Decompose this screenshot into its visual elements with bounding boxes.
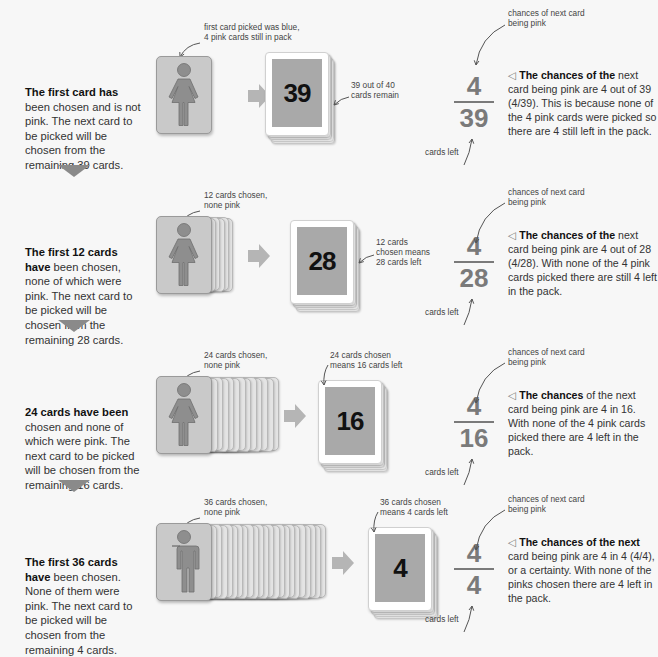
note-line: 39 out of 40 bbox=[351, 80, 399, 90]
step-row: The first 12 cards have been chosen, non… bbox=[0, 190, 646, 330]
step-row: 24 cards have been chosen and none of wh… bbox=[0, 350, 646, 490]
note-line: 24 cards chosen bbox=[330, 350, 402, 360]
fraction-denominator: 4 bbox=[454, 572, 494, 598]
step-description: The first 36 cards have been chosen. Non… bbox=[25, 555, 145, 657]
remaining-count: 4 bbox=[375, 534, 425, 602]
chance-explanation: ◁The chances of the next card being pink… bbox=[508, 68, 658, 138]
cards-left-note: cards left bbox=[425, 147, 459, 157]
remaining-count-card: 28 bbox=[290, 220, 354, 304]
remaining-count-card: 39 bbox=[265, 52, 329, 136]
fraction-numerator: 4 bbox=[454, 393, 494, 419]
remaining-count: 16 bbox=[325, 387, 375, 455]
fraction-denominator: 28 bbox=[454, 265, 494, 291]
note-line: first card picked was blue, bbox=[204, 22, 299, 32]
down-triangle-icon bbox=[58, 480, 90, 492]
probability-fraction: 439 bbox=[454, 73, 494, 131]
step-description: The first card has been chosen and is no… bbox=[25, 85, 145, 173]
note-arrow-icon bbox=[0, 350, 1, 368]
step-description-body: been chosen. None of them were pink. The… bbox=[25, 571, 132, 656]
note-line: 12 cards chosen, bbox=[204, 190, 267, 200]
step-description-body: been chosen, none of which were pink. Th… bbox=[25, 261, 132, 346]
step-description-lead: 24 cards have been bbox=[25, 406, 128, 418]
man-figure-icon bbox=[165, 530, 203, 598]
step-row: The first card has been chosen and is no… bbox=[0, 30, 646, 170]
note-line: means 16 cards left bbox=[330, 360, 402, 370]
chance-explanation-lead: The chances of the bbox=[519, 229, 615, 241]
cards-left-note: cards left bbox=[425, 614, 459, 624]
fraction-numerator: 4 bbox=[454, 540, 494, 566]
note-line: being pink bbox=[508, 357, 585, 367]
right-arrow-icon bbox=[284, 404, 306, 432]
step-row: The first 36 cards have been chosen. Non… bbox=[0, 497, 646, 637]
chance-note: chances of next cardbeing pink bbox=[508, 187, 585, 207]
chance-note: chances of next cardbeing pink bbox=[508, 494, 585, 514]
step-description-lead: The first card has bbox=[25, 86, 118, 98]
chosen-cards-note: first card picked was blue,4 pink cards … bbox=[204, 22, 299, 42]
note-line: being pink bbox=[508, 504, 585, 514]
note-line: none pink bbox=[204, 507, 267, 517]
note-line: chosen means bbox=[376, 247, 430, 257]
woman-figure-icon bbox=[165, 223, 203, 291]
left-triangle-icon: ◁ bbox=[508, 536, 516, 548]
chance-explanation: ◁The chances of the next card being pink… bbox=[508, 228, 658, 298]
note-line: none pink bbox=[204, 200, 267, 210]
note-line: chances of next card bbox=[508, 347, 585, 357]
remaining-count-card: 4 bbox=[368, 527, 432, 611]
top-chosen-card bbox=[156, 523, 212, 601]
note-arrow-icon bbox=[0, 30, 1, 48]
top-chosen-card bbox=[156, 376, 212, 454]
cards-left-note: cards left bbox=[425, 307, 459, 317]
note-line: 36 cards chosen bbox=[380, 497, 448, 507]
chosen-cards-note: 24 cards chosen,none pink bbox=[204, 350, 267, 370]
note-line: 4 pink cards still in pack bbox=[204, 32, 299, 42]
probability-fraction: 44 bbox=[454, 540, 494, 598]
note-arrow-icon bbox=[0, 190, 1, 208]
fraction-numerator: 4 bbox=[454, 73, 494, 99]
note-line: 36 cards chosen, bbox=[204, 497, 267, 507]
note-line: 12 cards bbox=[376, 237, 430, 247]
chosen-cards-note: 12 cards chosen,none pink bbox=[204, 190, 267, 210]
remaining-cards-note: 12 cardschosen means28 cards left bbox=[376, 237, 430, 268]
right-arrow-icon bbox=[332, 551, 354, 579]
cards-left-note: cards left bbox=[425, 467, 459, 477]
remaining-count-card: 16 bbox=[318, 380, 382, 464]
chance-explanation-body: card being pink are 4 in 4 (4/4), or a c… bbox=[508, 550, 655, 604]
remaining-cards-note: 36 cards chosenmeans 4 cards left bbox=[380, 497, 448, 517]
step-description-body: been chosen and is not pink. The next ca… bbox=[25, 101, 141, 171]
chance-explanation: ◁The chances of the next card being pink… bbox=[508, 535, 658, 605]
right-arrow-icon bbox=[248, 244, 270, 272]
note-line: being pink bbox=[508, 18, 585, 28]
fraction-denominator: 16 bbox=[454, 425, 494, 451]
left-triangle-icon: ◁ bbox=[508, 229, 516, 241]
note-line: being pink bbox=[508, 197, 585, 207]
chosen-cards-note: 36 cards chosen,none pink bbox=[204, 497, 267, 517]
note-line: means 4 cards left bbox=[380, 507, 448, 517]
down-triangle-icon bbox=[58, 320, 90, 332]
woman-figure-icon bbox=[165, 63, 203, 131]
note-line: 24 cards chosen, bbox=[204, 350, 267, 360]
remaining-cards-note: 24 cards chosenmeans 16 cards left bbox=[330, 350, 402, 370]
chance-note: chances of next cardbeing pink bbox=[508, 347, 585, 367]
top-chosen-card bbox=[156, 56, 212, 134]
fraction-denominator: 39 bbox=[454, 105, 494, 131]
remaining-count: 39 bbox=[272, 59, 322, 127]
top-chosen-card bbox=[156, 216, 212, 294]
note-line: chances of next card bbox=[508, 8, 585, 18]
chance-explanation-lead: The chances of the next bbox=[519, 536, 640, 548]
left-triangle-icon: ◁ bbox=[508, 389, 516, 401]
down-triangle-icon bbox=[58, 165, 90, 177]
probability-fraction: 428 bbox=[454, 233, 494, 291]
note-line: chances of next card bbox=[508, 494, 585, 504]
remaining-cards-note: 39 out of 40cards remain bbox=[351, 80, 399, 100]
note-arrow-icon bbox=[0, 497, 1, 515]
note-line: 28 cards left bbox=[376, 257, 430, 267]
note-line: none pink bbox=[204, 360, 267, 370]
note-line: chances of next card bbox=[508, 187, 585, 197]
woman-figure-icon bbox=[165, 383, 203, 451]
fraction-numerator: 4 bbox=[454, 233, 494, 259]
probability-fraction: 416 bbox=[454, 393, 494, 451]
remaining-count: 28 bbox=[297, 227, 347, 295]
left-triangle-icon: ◁ bbox=[508, 69, 516, 81]
chance-explanation-lead: The chances of the bbox=[519, 69, 615, 81]
chance-note: chances of next cardbeing pink bbox=[508, 8, 585, 28]
